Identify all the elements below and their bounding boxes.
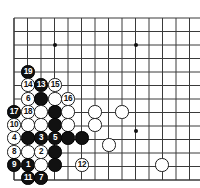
stone-move-4[interactable]: 4 bbox=[7, 131, 20, 144]
move-number-label: 3 bbox=[39, 134, 43, 142]
stone-move-8[interactable]: 8 bbox=[7, 145, 20, 158]
stone-white-c7r112[interactable] bbox=[88, 105, 101, 118]
stone-move-9[interactable]: 9 bbox=[7, 158, 20, 171]
stone-move-12[interactable]: 12 bbox=[75, 158, 88, 171]
move-number-label: 5 bbox=[53, 134, 57, 142]
stone-white-c5r112[interactable] bbox=[61, 105, 74, 118]
stone-move-18[interactable]: 18 bbox=[21, 105, 34, 118]
stone-move-16[interactable]: 16 bbox=[61, 92, 74, 105]
stone-move-15[interactable]: 15 bbox=[48, 78, 61, 91]
move-number-label: 16 bbox=[64, 95, 72, 103]
stone-move-11[interactable]: 11 bbox=[21, 171, 34, 184]
move-number-label: 2 bbox=[39, 148, 43, 156]
stone-move-6[interactable]: 6 bbox=[21, 92, 34, 105]
stone-move-7[interactable]: 7 bbox=[34, 171, 47, 184]
stone-black-c5r138[interactable] bbox=[61, 131, 74, 144]
stone-white-c3r125[interactable] bbox=[34, 118, 47, 131]
stone-white-c11r165[interactable] bbox=[155, 158, 168, 171]
move-number-label: 14 bbox=[24, 81, 32, 89]
stone-black-c4r112[interactable] bbox=[48, 105, 61, 118]
move-number-label: 9 bbox=[12, 161, 16, 169]
go-board[interactable]: 19141315616171810435829112117 bbox=[0, 0, 200, 188]
stone-white-c7r125[interactable] bbox=[88, 118, 101, 131]
move-number-label: 4 bbox=[12, 134, 16, 142]
stone-white-c2r125[interactable] bbox=[21, 118, 34, 131]
stone-move-17[interactable]: 17 bbox=[7, 105, 20, 118]
move-number-label: 13 bbox=[37, 81, 45, 89]
stone-move-10[interactable]: 10 bbox=[7, 118, 20, 131]
stone-black-c3r99[interactable] bbox=[34, 92, 47, 105]
stone-white-c9r112[interactable] bbox=[115, 105, 128, 118]
stone-move-1[interactable]: 1 bbox=[21, 158, 34, 171]
stone-white-c3r165[interactable] bbox=[34, 158, 47, 171]
move-number-label: 12 bbox=[78, 161, 86, 169]
stone-black-c2r138[interactable] bbox=[21, 131, 34, 144]
move-number-label: 8 bbox=[12, 148, 16, 156]
stone-black-c4r152[interactable] bbox=[48, 145, 61, 158]
stone-black-c6r138[interactable] bbox=[75, 131, 88, 144]
move-number-label: 19 bbox=[24, 68, 32, 76]
stone-move-14[interactable]: 14 bbox=[21, 78, 34, 91]
stone-white-c2r152[interactable] bbox=[21, 145, 34, 158]
stone-move-19[interactable]: 19 bbox=[21, 65, 34, 78]
stone-move-3[interactable]: 3 bbox=[34, 131, 47, 144]
stone-black-c4r125[interactable] bbox=[48, 118, 61, 131]
stone-move-13[interactable]: 13 bbox=[34, 78, 47, 91]
star-point-lower-right bbox=[134, 129, 138, 133]
star-point-upper-right bbox=[134, 43, 138, 47]
move-number-label: 11 bbox=[24, 174, 32, 182]
move-number-label: 15 bbox=[51, 81, 59, 89]
move-number-label: 10 bbox=[10, 121, 18, 129]
stone-move-5[interactable]: 5 bbox=[48, 131, 61, 144]
stone-white-c5r125[interactable] bbox=[61, 118, 74, 131]
stone-white-c8r145[interactable] bbox=[102, 138, 115, 151]
stone-move-2[interactable]: 2 bbox=[34, 145, 47, 158]
stone-white-c3r112[interactable] bbox=[34, 105, 47, 118]
star-point-upper-left bbox=[53, 43, 57, 47]
move-number-label: 18 bbox=[24, 108, 32, 116]
move-number-label: 17 bbox=[10, 108, 18, 116]
move-number-label: 6 bbox=[26, 95, 30, 103]
move-number-label: 7 bbox=[39, 174, 43, 182]
move-number-label: 1 bbox=[26, 161, 30, 169]
stone-black-c4r165[interactable] bbox=[48, 158, 61, 171]
stone-white-c4r99[interactable] bbox=[48, 92, 61, 105]
